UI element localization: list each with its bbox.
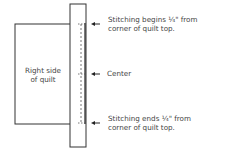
center-label: Center bbox=[107, 69, 131, 78]
stitch-end-label: Stitching ends ¼" from corner of quilt t… bbox=[108, 114, 191, 132]
arrow-icon bbox=[91, 121, 100, 125]
arrow-icon bbox=[91, 72, 100, 76]
arrow-icon bbox=[91, 22, 100, 26]
binding-strip bbox=[70, 4, 86, 147]
quilt-label: Right side of quilt bbox=[20, 66, 66, 84]
stitch-begin-label: Stitching begins ¼" from corner of quilt… bbox=[108, 15, 198, 33]
